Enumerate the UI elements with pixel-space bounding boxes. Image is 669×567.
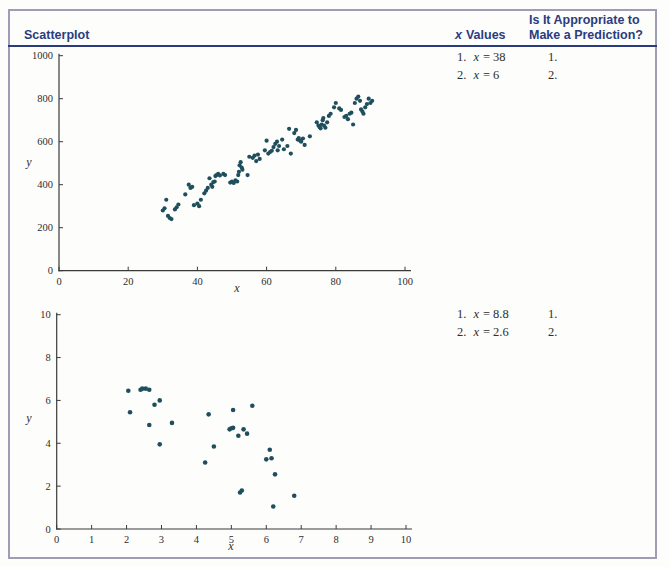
svg-text:x: x: [227, 539, 234, 553]
x-variable-symbol: x: [473, 50, 479, 65]
svg-text:0: 0: [54, 534, 59, 545]
svg-text:8: 8: [45, 352, 50, 363]
x-variable-symbol: x: [455, 28, 462, 42]
prediction-item: 2.: [548, 68, 557, 83]
svg-text:4: 4: [45, 438, 51, 449]
svg-text:80: 80: [331, 276, 342, 287]
prediction-item: 1.: [548, 307, 557, 322]
item-number: 1.: [457, 50, 466, 65]
textbook-table-page: Scatterplot xValues Is It Appropriate to…: [0, 0, 669, 567]
prediction-item: 1.: [548, 50, 557, 65]
x-value-item: 2.x= 6: [457, 68, 499, 83]
item-number: 2.: [457, 68, 466, 83]
x-value-item: 2.x= 2.6: [457, 325, 509, 340]
svg-text:9: 9: [368, 534, 373, 545]
prediction-item: 2.: [548, 325, 557, 340]
svg-text:y: y: [25, 411, 32, 425]
svg-text:0: 0: [56, 276, 61, 287]
svg-text:3: 3: [159, 534, 164, 545]
item-value: = 38: [483, 50, 506, 64]
svg-text:10: 10: [40, 309, 51, 320]
x-values-label: Values: [466, 28, 506, 42]
svg-text:6: 6: [45, 395, 50, 406]
svg-text:4: 4: [194, 534, 200, 545]
svg-text:200: 200: [37, 222, 53, 233]
svg-text:400: 400: [37, 179, 53, 190]
scatterplot-2-chart: 0123456789100246810xy: [0, 302, 460, 564]
column-header-scatterplot: Scatterplot: [24, 28, 89, 43]
column-header-x-values: xValues: [455, 28, 506, 43]
item-number: 2.: [457, 325, 466, 340]
svg-text:100: 100: [397, 276, 413, 287]
svg-text:40: 40: [192, 276, 203, 287]
svg-text:60: 60: [261, 276, 272, 287]
svg-text:20: 20: [123, 276, 134, 287]
svg-text:800: 800: [37, 93, 53, 104]
item-value: = 8.8: [483, 307, 509, 321]
svg-text:x: x: [233, 281, 240, 295]
svg-text:10: 10: [401, 534, 412, 545]
item-number: 1.: [457, 307, 466, 322]
x-variable-symbol: x: [473, 307, 479, 322]
x-value-item: 1.x= 8.8: [457, 307, 509, 322]
svg-text:0: 0: [48, 265, 53, 276]
svg-text:1000: 1000: [32, 50, 53, 61]
x-variable-symbol: x: [473, 325, 479, 340]
column-header-prediction: Is It Appropriate to Make a Prediction?: [529, 13, 643, 43]
svg-text:2: 2: [124, 534, 129, 545]
x-variable-symbol: x: [473, 68, 479, 83]
svg-text:8: 8: [334, 534, 339, 545]
svg-text:7: 7: [299, 534, 304, 545]
prediction-header-line2: Make a Prediction?: [529, 28, 643, 43]
svg-text:0: 0: [45, 524, 50, 535]
prediction-header-line1: Is It Appropriate to: [529, 13, 643, 28]
item-value: = 2.6: [483, 325, 509, 339]
svg-text:600: 600: [37, 136, 53, 147]
item-value: = 6: [483, 68, 499, 82]
svg-text:y: y: [25, 155, 32, 169]
svg-text:6: 6: [264, 534, 269, 545]
svg-text:2: 2: [45, 481, 50, 492]
svg-text:1: 1: [89, 534, 94, 545]
x-value-item: 1.x= 38: [457, 50, 506, 65]
scatterplot-1-chart: 02040608010002004006008001000xy: [0, 46, 460, 300]
